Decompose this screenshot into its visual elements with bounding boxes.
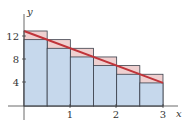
lower-rectangle bbox=[93, 66, 116, 106]
lower-rectangle bbox=[47, 48, 70, 106]
y-tick-label-8: 8 bbox=[13, 54, 19, 65]
lower-rectangle bbox=[140, 83, 163, 106]
y-tick-label-12: 12 bbox=[6, 31, 19, 42]
y-tick-label-4: 4 bbox=[13, 77, 19, 88]
x-tick-label-1: 1 bbox=[67, 109, 73, 120]
y-axis-label: y bbox=[26, 6, 33, 17]
rectangles bbox=[24, 31, 163, 106]
riemann-sum-chart: 1 2 3 4 8 12 y x bbox=[0, 0, 191, 129]
x-axis-label: x bbox=[176, 108, 182, 119]
x-tick-label-3: 3 bbox=[160, 109, 166, 120]
lower-rectangle bbox=[70, 57, 93, 106]
lower-rectangle bbox=[24, 40, 47, 106]
lower-rectangle bbox=[117, 74, 140, 106]
x-tick-label-2: 2 bbox=[113, 109, 119, 120]
